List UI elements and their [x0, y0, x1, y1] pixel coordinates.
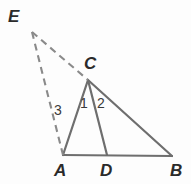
vertex-label-A: A [54, 162, 66, 179]
vertex-label-E: E [8, 8, 19, 25]
angle-label-2: 2 [97, 96, 105, 110]
geometry-canvas [0, 0, 191, 184]
segment-AB [63, 155, 172, 156]
angle-label-3: 3 [54, 103, 62, 117]
vertex-label-B: B [170, 162, 182, 179]
vertex-label-C: C [84, 55, 96, 72]
segment-EA [32, 32, 63, 155]
vertex-label-D: D [100, 162, 112, 179]
geometry-figure: E C A D B 1 2 3 [0, 0, 191, 184]
segment-AC [63, 80, 88, 155]
segment-CD [88, 80, 107, 155]
segment-CB [88, 80, 172, 156]
segment-EC [32, 32, 88, 80]
angle-label-1: 1 [80, 96, 88, 110]
